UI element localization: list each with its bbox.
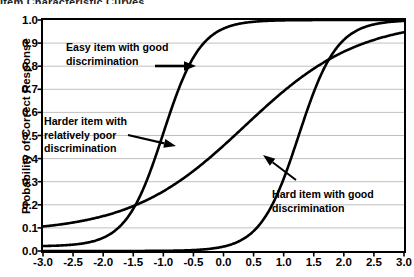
annotation-easy-line2: discrimination bbox=[66, 55, 168, 69]
arrow-right-easy bbox=[184, 61, 196, 71]
arrow-right-harder bbox=[163, 139, 176, 148]
annotation-hard-item: Hard item with good discrimination bbox=[272, 188, 374, 215]
annotation-harder-item: Harder item with relatively poor discrim… bbox=[44, 115, 127, 156]
annotation-harder-line1: Harder item with bbox=[44, 115, 127, 129]
annotation-easy-item: Easy item with good discrimination bbox=[66, 41, 168, 68]
annotation-harder-line3: discrimination bbox=[44, 142, 127, 156]
annotation-harder-line2: relatively poor bbox=[44, 129, 127, 143]
annotation-hard-line2: discrimination bbox=[272, 202, 374, 216]
annotation-hard-line1: Hard item with good bbox=[272, 188, 374, 202]
arrow-up-left-hard bbox=[263, 155, 275, 166]
annotation-easy-line1: Easy item with good bbox=[66, 41, 168, 55]
chart-figure: Item Characteristic Curves Probability o… bbox=[0, 0, 414, 277]
